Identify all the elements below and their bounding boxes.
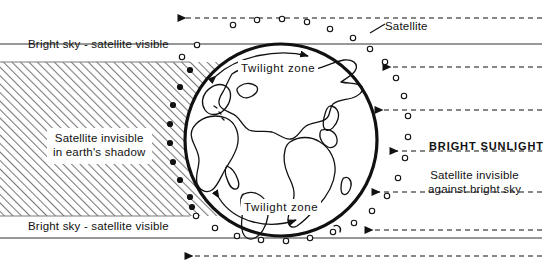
label-twilight-zone-bottom: Twilight zone <box>241 199 321 215</box>
label-twilight-zone-top: Twilight zone <box>238 60 318 76</box>
label-satellite-invisible-bright-sky: Satellite invisible against bright sky <box>428 168 521 197</box>
label-bright-sky-bottom: Bright sky - satellite visible <box>28 219 169 233</box>
satellite-leader-line <box>370 24 385 33</box>
label-satellite-invisible-shadow: Satellite invisible in earth's shadow <box>47 128 152 164</box>
label-bright-sunlight: BRIGHT SUNLIGHT <box>429 140 544 154</box>
label-satellite: Satellite <box>385 19 428 33</box>
label-bright-sky-top: Bright sky - satellite visible <box>28 37 169 51</box>
label-against-line2: against bright sky <box>428 182 521 196</box>
label-against-line1: Satellite invisible <box>428 168 521 182</box>
label-shadow-line1: Satellite invisible <box>53 131 146 145</box>
label-shadow-line2: in earth's shadow <box>53 145 146 159</box>
